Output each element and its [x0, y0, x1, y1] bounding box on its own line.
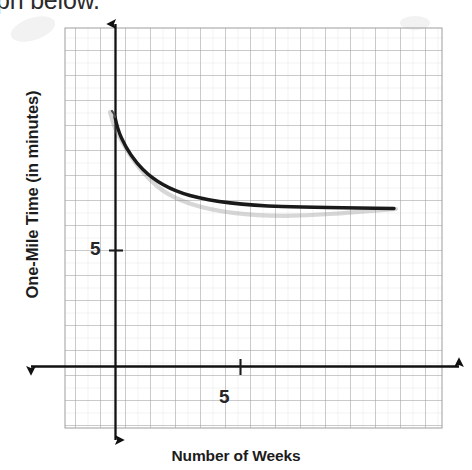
- graph-figure: One-Mile Time (in minutes) Number of Wee…: [0, 0, 472, 470]
- x-axis-tick-label-5: 5: [219, 386, 230, 408]
- y-axis-title: One-Mile Time (in minutes): [23, 80, 42, 310]
- y-axis-tick-label-5: 5: [90, 238, 101, 260]
- x-axis-title: Number of Weeks: [0, 447, 472, 465]
- grid: [65, 28, 442, 428]
- coordinate-plane: [0, 0, 472, 470]
